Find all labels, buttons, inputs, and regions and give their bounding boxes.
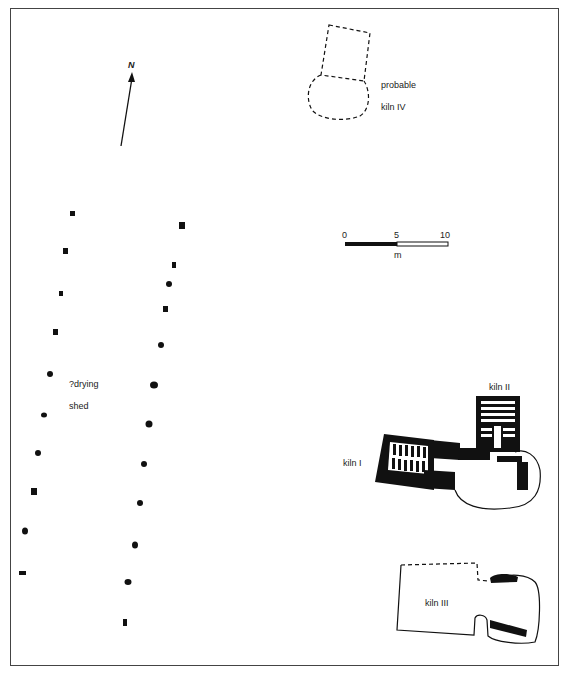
scale-tick-0: 0	[342, 230, 347, 241]
scale-tick-5: 5	[394, 230, 399, 241]
scale-bar	[345, 242, 448, 246]
kiln-iv-outline	[308, 25, 370, 119]
kiln-i-structure	[375, 434, 490, 490]
drying-shed-label: ?drying shed	[64, 368, 99, 412]
kiln-i-label: kiln I	[343, 458, 362, 469]
north-label: N	[128, 60, 135, 71]
kiln-iii-outline	[397, 563, 540, 643]
post-holes-right-row	[123, 222, 185, 626]
scale-unit: m	[394, 250, 402, 261]
drying-shed-label-line1: ?drying	[69, 379, 99, 389]
kiln-iv-label-line2: kiln IV	[381, 102, 406, 112]
drying-shed-label-line2: shed	[69, 401, 89, 411]
kiln-iv-label: probable kiln IV	[376, 69, 416, 113]
north-arrow-icon	[121, 72, 135, 146]
kiln-iv-label-line1: probable	[381, 80, 416, 90]
kiln-ii-structure	[476, 396, 528, 490]
kiln-iii-label: kiln III	[425, 598, 449, 609]
site-plan	[0, 0, 573, 674]
scale-tick-10: 10	[440, 230, 450, 241]
kiln-ii-label: kiln II	[489, 382, 510, 393]
